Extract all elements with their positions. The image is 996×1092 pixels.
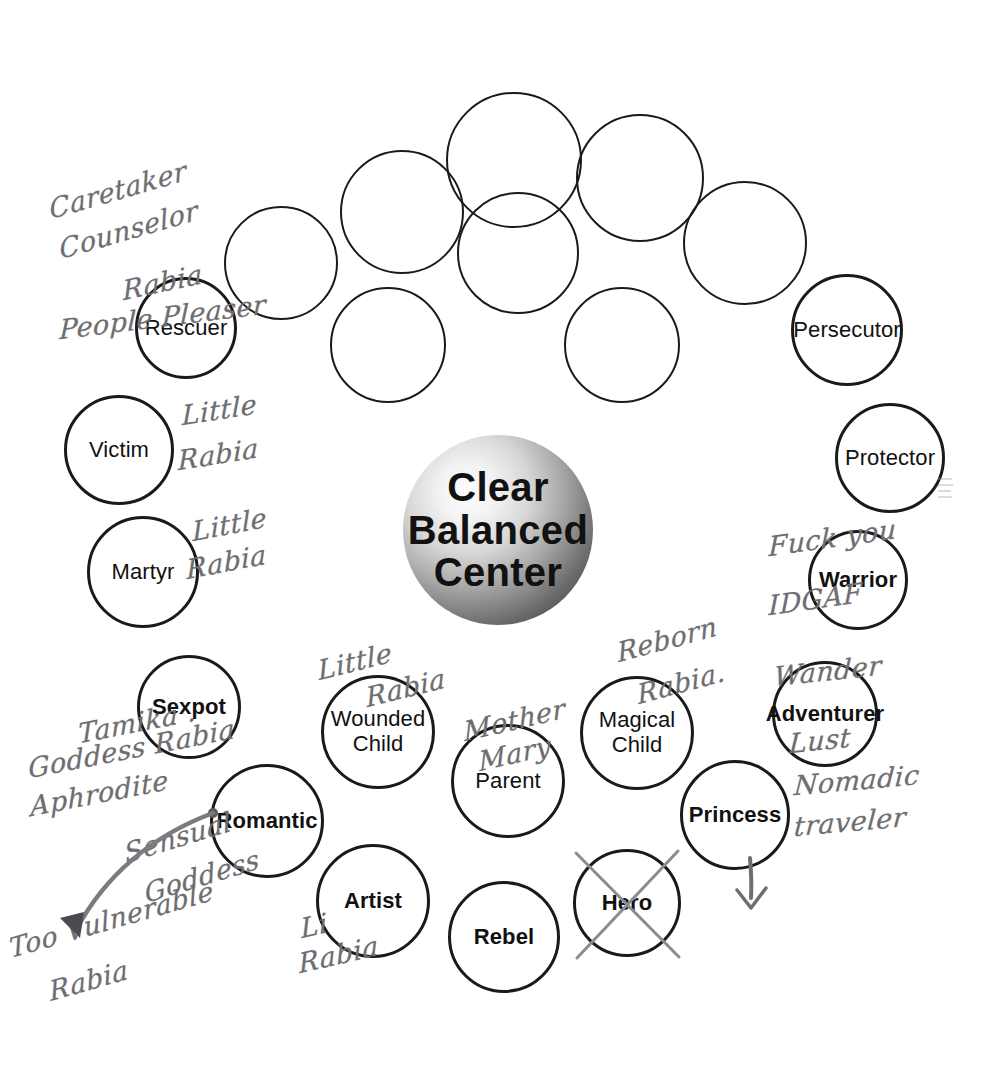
archetype-node-label: Persecutor: [789, 318, 904, 343]
archetype-node-rebel[interactable]: Rebel: [448, 881, 560, 993]
archetype-node-protector[interactable]: Protector: [835, 403, 945, 513]
scan-artifact: [938, 479, 953, 497]
archetype-node-empty-6[interactable]: [457, 192, 579, 314]
note-rabia-vulnerable: Rabia: [48, 956, 130, 1006]
archetype-node-empty-7[interactable]: [330, 287, 446, 403]
archetype-node-label: Rebel: [470, 925, 538, 950]
note-rabia-martyr: Rabia: [186, 540, 267, 583]
archetype-node-empty-1[interactable]: [340, 150, 464, 274]
clear-balanced-center-node[interactable]: Clear Balanced Center: [403, 435, 593, 625]
archetype-node-princess[interactable]: Princess: [680, 760, 790, 870]
archetype-node-label: Adventurer: [762, 702, 888, 727]
note-traveler: traveler: [793, 803, 907, 841]
archetype-node-label: Princess: [685, 803, 786, 828]
archetype-node-empty-4[interactable]: [683, 181, 807, 305]
archetype-node-label: Artist: [340, 889, 406, 914]
archetype-node-label: Protector: [841, 446, 939, 471]
note-vulnerable: Too Vulnerable: [8, 877, 215, 963]
archetype-node-label: Magical Child: [595, 708, 680, 757]
archetype-node-label: Martyr: [108, 560, 179, 585]
note-nomadic: Nomadic: [793, 761, 921, 800]
note-little-artist: Li: [300, 909, 329, 943]
archetype-node-victim[interactable]: Victim: [64, 395, 174, 505]
archetype-node-empty-3[interactable]: [576, 114, 704, 242]
note-little-victim: Little: [182, 390, 257, 430]
note-lust: Lust: [789, 724, 852, 758]
archetype-node-empty-8[interactable]: [564, 287, 680, 403]
note-rabia-victim: Rabia: [178, 434, 259, 475]
center-label: Clear Balanced Center: [408, 466, 588, 593]
archetype-node-label: Victim: [85, 438, 153, 463]
archetype-node-hero[interactable]: Hero: [573, 849, 681, 957]
note-reborn: Reborn: [616, 612, 719, 666]
diagram-canvas: Clear Balanced Center RescuerVictimMarty…: [0, 0, 996, 1092]
archetype-node-martyr[interactable]: Martyr: [87, 516, 199, 628]
archetype-node-label: Wounded Child: [327, 707, 429, 756]
archetype-node-persecutor[interactable]: Persecutor: [791, 274, 903, 386]
archetype-node-label: Hero: [598, 891, 657, 916]
